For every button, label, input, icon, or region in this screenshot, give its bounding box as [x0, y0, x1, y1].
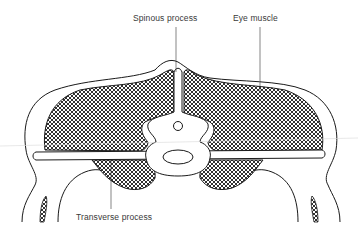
left-rib-section: [40, 196, 47, 222]
spinal-canal: [174, 122, 183, 131]
spinous-process-label: Spinous process: [133, 13, 197, 23]
vertebral-body-oval: [163, 150, 193, 164]
right-lower-muscle: [200, 160, 263, 190]
right-rib-section: [311, 196, 318, 222]
transverse-process-label: Transverse process: [76, 212, 152, 222]
eye-muscle-label: Eye muscle: [233, 13, 278, 23]
vertebra-cross-section-diagram: [0, 0, 358, 238]
right-eye-muscle: [184, 70, 323, 151]
left-lower-muscle: [92, 160, 155, 190]
